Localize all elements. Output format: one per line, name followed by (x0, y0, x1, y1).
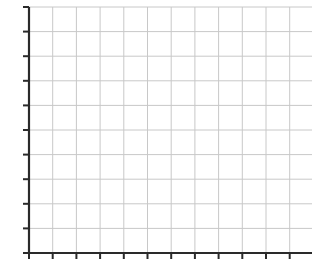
empty-chart-grid (0, 0, 312, 271)
grid-lines (29, 7, 312, 253)
axis-ticks (23, 7, 312, 259)
